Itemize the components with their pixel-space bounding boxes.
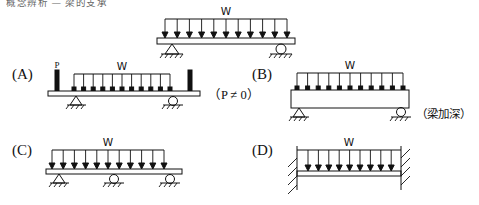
load-arrow-group bbox=[72, 74, 172, 91]
option-label-a: (A) bbox=[12, 66, 33, 83]
load-arrow-group bbox=[162, 19, 290, 38]
option-label-c: (C) bbox=[12, 142, 32, 159]
support-pin-left bbox=[289, 108, 309, 121]
option-b-svg: W bbox=[285, 60, 435, 122]
beam-body bbox=[46, 169, 182, 174]
reference-load-label: W bbox=[221, 5, 232, 17]
option-a-note: （P ≠ 0） bbox=[208, 84, 260, 103]
support-roller-right bbox=[162, 97, 183, 110]
option-c-figure: W bbox=[42, 136, 212, 198]
option-a-svg: P W bbox=[45, 60, 225, 110]
beam-body bbox=[297, 171, 401, 176]
support-pin-left bbox=[66, 96, 86, 109]
option-c-svg: W bbox=[42, 136, 212, 198]
option-d-svg: W bbox=[283, 136, 453, 198]
option-b-figure: W bbox=[285, 60, 435, 122]
point-load-left bbox=[55, 70, 59, 91]
option-c-load-label: W bbox=[103, 136, 114, 148]
support-pin-left bbox=[49, 174, 69, 187]
reference-beam-svg: W bbox=[152, 6, 322, 58]
support-roller-right bbox=[390, 108, 411, 122]
beam-body bbox=[48, 91, 200, 96]
option-b-note: （梁加深） bbox=[416, 105, 471, 121]
option-a-load-label: W bbox=[117, 60, 128, 72]
figure-page: 概念辨析 — 梁的支承 W bbox=[0, 0, 479, 205]
support-roller-right bbox=[269, 44, 292, 58]
beam-body-deep bbox=[291, 90, 409, 108]
load-arrow-group bbox=[295, 73, 405, 90]
option-a-figure: P W bbox=[45, 60, 225, 110]
option-label-b: (B) bbox=[252, 66, 272, 83]
support-roller-middle bbox=[103, 175, 124, 188]
support-roller-right bbox=[159, 175, 180, 188]
support-fixed-right bbox=[401, 146, 410, 190]
load-arrow-group bbox=[305, 150, 394, 171]
beam-body bbox=[157, 38, 295, 44]
support-fixed-left bbox=[288, 146, 297, 194]
point-load-right bbox=[188, 70, 192, 91]
support-pin-left bbox=[160, 44, 183, 58]
load-arrow-group bbox=[49, 150, 167, 169]
option-label-d: (D) bbox=[252, 142, 273, 159]
cut-off-header-text: 概念辨析 — 梁的支承 bbox=[6, 0, 107, 9]
option-d-load-label: W bbox=[344, 136, 355, 148]
option-d-figure: W bbox=[283, 136, 453, 198]
reference-beam-figure: W bbox=[152, 6, 322, 58]
option-b-load-label: W bbox=[345, 59, 356, 71]
option-a-point-load-label: P bbox=[54, 60, 59, 70]
